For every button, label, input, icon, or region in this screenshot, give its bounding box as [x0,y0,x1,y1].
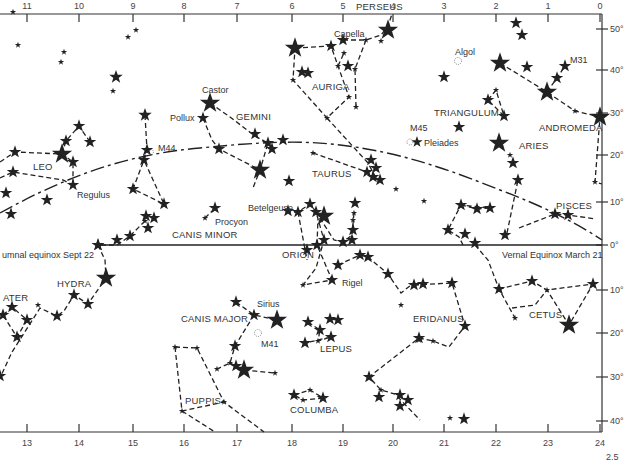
bottom-hour-label: 18 [287,438,297,448]
star-castor [206,99,215,107]
star-capella [325,40,337,52]
bottom-hour-label: 15 [128,438,138,448]
autumnal-equinox-label: umnal equinox Sept 22 [2,250,94,260]
declination-label: 40° [610,65,624,75]
object-label: Betelgeuse [248,203,293,213]
object-label: Algol [455,47,475,57]
top-hour-label: 3 [441,1,446,11]
object-label: M31 [570,55,588,65]
top-hour-label: 5 [340,1,345,11]
bottom-hour-label: 22 [491,438,501,448]
object-labels: CapellaAlgolM31CastorPolluxM44M45Pleiade… [77,29,588,349]
bottom-hour-ticks: 131415161718192021222324 [22,424,605,448]
object-label: M41 [261,339,279,349]
constellation-label: CANIS MINOR [172,229,238,240]
declination-label: 40° [610,416,624,426]
constellation-label: HYDRA [57,278,92,289]
constellation-label: ANDROMEDA [539,122,603,133]
bottom-hour-label: 21 [439,438,449,448]
constellation-label: CETUS [529,309,562,320]
constellation-label: ARIES [519,140,549,151]
object-label: Procyon [215,217,248,227]
constellation-lines [0,14,602,432]
object-label: Castor [202,85,229,95]
stars-open [0,20,604,421]
declination-ticks: 50°40°30°20°10°0°10°20°30°40° [596,24,624,426]
constellation-label: ERIDANUS [413,313,464,324]
star-pollux [197,112,209,124]
constellation-label: PERSEUS [356,1,403,12]
declination-label: 20° [610,328,624,338]
constellation-label: CANIS MAJOR [181,313,248,324]
bottom-hour-label: 24 [595,438,605,448]
object-label: Capella [334,29,365,39]
vernal-equinox-label: Vernal Equinox March 21 [502,250,603,260]
top-hour-label: 2 [493,1,498,11]
constellation-label: LEO [33,161,53,172]
object-label: Pleiades [424,138,459,148]
object-label: M44 [158,143,176,153]
bottom-hour-label: 23 [543,438,553,448]
top-hour-label: 1 [545,1,550,11]
top-hour-label: 10 [74,1,84,11]
declination-label: 30° [610,108,624,118]
m41-cluster-icon [255,330,262,337]
constellation-label: AURIGA [312,81,350,92]
axes: 11109876543210 131415161718192021222324 … [0,1,624,448]
declination-label: 30° [610,372,624,382]
constellation-label: LEPUS [320,343,352,354]
top-hour-label: 11 [22,1,31,11]
constellation-label: ORION [282,249,314,260]
constellation-label: PUPPIS [185,395,221,406]
declination-label: 20° [610,150,624,160]
bottom-hour-label: 13 [22,438,32,448]
top-hour-label: 8 [181,1,186,11]
object-label: Sirius [257,299,280,309]
bottom-hour-label: 14 [74,438,84,448]
bottom-hour-label: 20 [388,438,398,448]
star-rigel [326,274,338,286]
constellation-label: TAURUS [312,168,352,179]
declination-label: 10° [610,285,624,295]
bottom-hour-label: 16 [179,438,189,448]
top-hour-label: 9 [130,1,135,11]
clusters [149,58,462,337]
object-label: Rigel [342,278,363,288]
object-label: Regulus [77,190,111,200]
constellation-label: COLUMBA [290,404,339,415]
constellation-label: PISCES [556,200,592,211]
corner-mark: 2.5 [606,452,619,461]
object-label: M45 [410,123,428,133]
star-chart: 11109876543210 131415161718192021222324 … [0,0,628,461]
top-hour-label: 6 [289,1,294,11]
declination-label: 50° [610,24,624,34]
bottom-hour-label: 19 [338,438,348,448]
declination-label: 10° [610,197,624,207]
object-label: Pollux [170,113,195,123]
constellation-label: ATER [3,292,28,303]
top-hour-label: 7 [234,1,239,11]
star-sirius [248,309,260,321]
constellation-label: TRIANGULUM [434,107,499,118]
declination-label: 0° [610,240,619,250]
bottom-hour-label: 17 [232,438,242,448]
constellation-label: GEMINI [236,111,271,122]
top-hour-label: 0 [597,1,602,11]
pleiades-cluster-icon [407,139,413,145]
algol-cluster-icon [455,58,462,65]
